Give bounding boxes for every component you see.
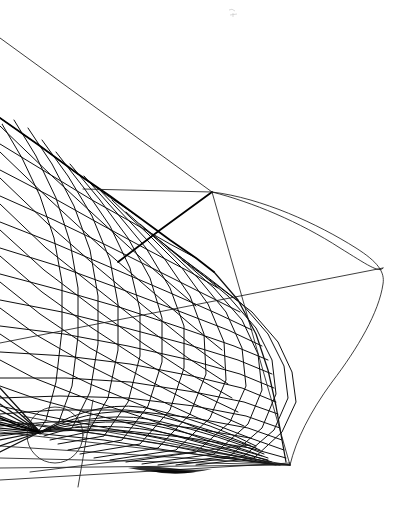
hull-lines-plan-drawing — [0, 0, 407, 509]
lines-plan-svg — [0, 0, 407, 509]
